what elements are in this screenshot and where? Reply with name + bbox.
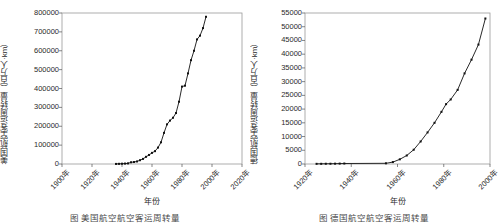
y-tick-label: 100000 — [16, 141, 59, 149]
y-tick-label: 600000 — [16, 47, 59, 55]
figure-caption: 图 德国航空航空客运周转量 — [249, 214, 499, 223]
y-tick-label: 10000 — [259, 133, 302, 141]
y-tick-label: 35000 — [259, 64, 302, 72]
y-tick-label: 500000 — [16, 66, 59, 74]
figure-container: 美国航空客运周转量（百万人·km） 德国航空客运周转量（百万人·km） 0100… — [0, 0, 499, 223]
figure-caption: 图 美国航空航空客运周转量 — [0, 214, 250, 223]
y-tick-label: 15000 — [259, 119, 302, 127]
y-tick-label: 20000 — [259, 105, 302, 113]
y-tick-label: 40000 — [259, 50, 302, 58]
y-tick-label: 200000 — [16, 122, 59, 130]
y-tick-label: 25000 — [259, 91, 302, 99]
y-tick-label: 800000 — [16, 9, 59, 17]
y-tick-label: 300000 — [16, 103, 59, 111]
y-tick-label: 700000 — [16, 28, 59, 36]
y-tick-label: 5000 — [259, 146, 302, 154]
y-tick-label: 50000 — [259, 23, 302, 31]
y-tick-label: 45000 — [259, 36, 302, 44]
y-tick-label: 0 — [16, 160, 59, 168]
y-tick-label: 55000 — [259, 9, 302, 17]
y-axis-title-right: 德国航空客运周转量（百万人·km） — [251, 12, 259, 164]
y-tick-label: 0 — [259, 160, 302, 168]
x-axis-title: 年份 — [305, 198, 490, 206]
y-tick-label: 400000 — [16, 85, 59, 93]
x-axis-title: 年份 — [62, 198, 242, 206]
y-tick-label: 30000 — [259, 78, 302, 86]
